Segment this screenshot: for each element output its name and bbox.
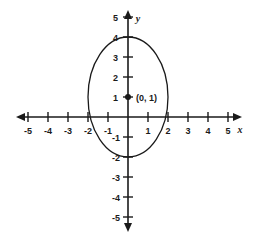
y-tick-label--4: -4 [112,193,120,203]
x-axis-right-arrow-icon [233,113,242,121]
y-tick-label--2: -2 [112,153,120,163]
x-axis-label: x [237,124,243,135]
x-tick-label--5: -5 [24,126,32,136]
x-tick-label-1: 1 [145,126,150,136]
y-tick-label-3: 3 [113,53,118,63]
x-tick-label--3: -3 [64,126,72,136]
point-marker-0-1 [125,94,131,100]
y-axis-label: y [135,13,141,24]
y-axis-tick-labels: 5 4 3 2 1 -1 -2 -3 -4 -5 [112,13,120,223]
x-tick-label--4: -4 [44,126,52,136]
x-axis-left-arrow-icon [16,113,25,121]
y-tick-label-4: 4 [113,33,118,43]
x-tick-label-3: 3 [185,126,190,136]
y-tick-label--1: -1 [112,133,120,143]
x-tick-label--2: -2 [84,126,92,136]
x-tick-label--1: -1 [104,126,112,136]
y-tick-label-1: 1 [113,93,118,103]
y-tick-label--5: -5 [112,213,120,223]
x-tick-label-5: 5 [225,126,230,136]
graph-figure: -5 -4 -3 -2 -1 1 2 3 4 5 5 4 3 2 1 -1 -2… [0,0,257,241]
x-tick-label-2: 2 [165,126,170,136]
y-axis-down-arrow-icon [124,223,132,232]
point-label-0-1: (0, 1) [136,93,157,103]
y-tick-label-2: 2 [113,73,118,83]
y-tick-label-5: 5 [113,13,118,23]
x-tick-label-4: 4 [205,126,210,136]
coordinate-plane-svg: -5 -4 -3 -2 -1 1 2 3 4 5 5 4 3 2 1 -1 -2… [0,0,257,241]
y-tick-label--3: -3 [112,173,120,183]
